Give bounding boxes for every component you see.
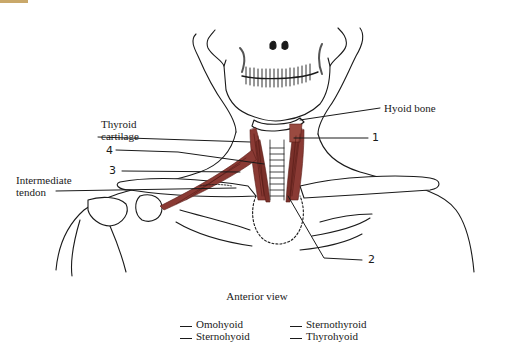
legend-item-omohyoid: Omohyoid <box>180 318 250 330</box>
label-number-1: 1 <box>372 132 379 144</box>
label-number-3: 3 <box>109 165 116 177</box>
anatomy-diagram: Hyoid bone 1 Thyroid cartilage 4 3 Inter… <box>0 0 514 349</box>
left-shoulder-joint <box>71 195 162 276</box>
legend-column-right: Sternothyroid Thyrohyoid <box>290 318 367 342</box>
label-intermediate-line2: tendon <box>16 186 46 198</box>
view-caption: Anterior view <box>0 290 514 302</box>
label-thyroid-line1: Thyroid <box>101 118 136 130</box>
right-clavicle <box>300 176 439 198</box>
trachea <box>270 140 284 200</box>
legend-dash <box>180 338 192 339</box>
legend-item-sternothyroid: Sternothyroid <box>290 318 367 330</box>
manubrium <box>253 196 304 244</box>
label-number-2: 2 <box>368 254 375 266</box>
label-hyoid-bone: Hyoid bone <box>384 102 436 114</box>
label-thyroid-line2: cartilage <box>101 130 139 142</box>
legend-item-sternohyoid: Sternohyoid <box>180 330 250 342</box>
legend-column-left: Omohyoid Sternohyoid <box>180 318 250 342</box>
legend-dash <box>290 338 302 339</box>
legend-dash <box>180 326 192 327</box>
legend-item-thyrohyoid: Thyrohyoid <box>290 330 367 342</box>
label-intermediate-line1: Intermediate <box>16 174 72 186</box>
label-number-4: 4 <box>106 145 113 157</box>
skull-outline <box>193 28 363 134</box>
legend-dash <box>290 326 302 327</box>
